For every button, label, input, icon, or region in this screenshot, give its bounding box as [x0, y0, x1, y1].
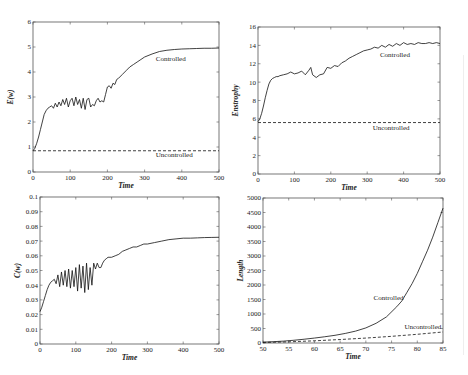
- annotation-uncontrolled: Uncontrolled: [373, 124, 410, 132]
- x-tick-label: 400: [178, 346, 189, 354]
- y-tick-label: 0.08: [26, 223, 39, 231]
- y-tick-label: 0: [258, 339, 262, 347]
- y-tick-label: 5000: [247, 194, 262, 202]
- y-tick-label: 0.07: [26, 238, 39, 246]
- figure-canvas: 01002003004005000123456TimeE(w)Controlle…: [0, 0, 468, 375]
- x-tick-label: 300: [362, 176, 373, 184]
- y-tick-label: 0.04: [26, 282, 39, 290]
- y-tick-label: 4: [253, 134, 257, 142]
- y-tick-label: 3: [28, 93, 32, 101]
- chart-conductance: 010020030040050000.010.020.030.040.050.0…: [13, 193, 225, 362]
- series-controlled-line: [33, 48, 219, 151]
- x-tick-label: 500: [214, 174, 225, 182]
- x-tick-label: 200: [326, 176, 337, 184]
- y-tick-label: 0: [253, 170, 257, 178]
- annotation-controlled: Controlled: [374, 294, 404, 302]
- x-tick-label: 100: [65, 174, 76, 182]
- y-tick-label: 3000: [247, 252, 262, 260]
- y-tick-label: 0: [35, 340, 39, 348]
- y-tick-label: 2: [28, 118, 32, 126]
- x-tick-label: 75: [388, 345, 396, 353]
- y-tick-label: 0.01: [26, 326, 39, 334]
- y-tick-label: 5: [28, 43, 32, 51]
- annotation-controlled: Controlled: [380, 51, 410, 59]
- y-tick-label: 10: [249, 79, 257, 87]
- series-controlled-line: [40, 237, 219, 311]
- x-tick-label: 0: [31, 174, 35, 182]
- annotation-uncontrolled: Uncontrolled: [156, 151, 193, 159]
- y-axis-label: C(w): [13, 262, 22, 278]
- x-tick-label: 400: [177, 174, 188, 182]
- y-tick-label: 0.05: [26, 267, 39, 275]
- y-tick-label: 4: [28, 68, 32, 76]
- y-tick-label: 4000: [247, 223, 262, 231]
- y-axis-label: Length: [236, 259, 245, 282]
- y-tick-label: 8: [253, 97, 257, 105]
- x-axis-label: Time: [345, 352, 361, 361]
- x-tick-label: 500: [435, 176, 446, 184]
- chart-energy: 01002003004005000123456TimeE(w)Controlle…: [6, 18, 225, 190]
- y-tick-label: 6: [28, 18, 32, 26]
- x-tick-label: 500: [214, 346, 225, 354]
- x-tick-label: 300: [142, 346, 153, 354]
- x-axis-label: Time: [122, 353, 138, 362]
- chart-length: 5055606570758085050010001500200025003000…: [236, 194, 447, 361]
- x-tick-label: 100: [71, 346, 82, 354]
- series-controlled-line: [258, 43, 440, 122]
- y-tick-label: 0: [28, 168, 32, 176]
- y-tick-label: 2500: [247, 267, 262, 275]
- y-tick-label: 500: [251, 325, 262, 333]
- y-axis-label: Enstrophy: [231, 84, 240, 118]
- plot-frame: [258, 27, 440, 174]
- x-axis-label: Time: [341, 183, 357, 192]
- x-tick-label: 200: [102, 174, 113, 182]
- y-tick-label: 16: [249, 23, 257, 31]
- x-tick-label: 300: [139, 174, 150, 182]
- x-axis-label: Time: [118, 181, 134, 190]
- y-tick-label: 6: [253, 115, 257, 123]
- plot-frame: [263, 198, 443, 343]
- scan-edge-divider: [463, 55, 464, 355]
- x-tick-label: 55: [285, 345, 293, 353]
- x-tick-label: 0: [256, 176, 260, 184]
- x-tick-label: 100: [289, 176, 300, 184]
- x-tick-label: 65: [337, 345, 345, 353]
- y-tick-label: 0.02: [26, 311, 39, 319]
- y-tick-label: 0.1: [29, 193, 38, 201]
- y-tick-label: 1: [28, 143, 32, 151]
- y-tick-label: 4500: [247, 209, 262, 217]
- x-tick-label: 70: [362, 345, 370, 353]
- annotation-controlled: Controlled: [156, 55, 186, 63]
- plot-frame: [33, 22, 219, 172]
- y-tick-label: 1500: [247, 296, 262, 304]
- y-tick-label: 0.06: [26, 252, 39, 260]
- y-tick-label: 1000: [247, 310, 262, 318]
- x-tick-label: 60: [311, 345, 319, 353]
- y-axis-label: E(w): [6, 89, 15, 106]
- y-tick-label: 14: [249, 42, 257, 50]
- y-tick-label: 2: [253, 152, 257, 160]
- annotation-uncontrolled: Uncontrolled: [404, 323, 441, 331]
- y-tick-label: 12: [249, 60, 257, 68]
- x-tick-label: 85: [440, 345, 448, 353]
- y-tick-label: 2000: [247, 281, 262, 289]
- x-tick-label: 200: [106, 346, 117, 354]
- x-tick-label: 400: [398, 176, 409, 184]
- y-tick-label: 3500: [247, 238, 262, 246]
- x-tick-label: 80: [414, 345, 422, 353]
- x-tick-label: 0: [38, 346, 42, 354]
- y-tick-label: 0.09: [26, 208, 39, 216]
- y-tick-label: 0.03: [26, 296, 39, 304]
- chart-enstrophy: 01002003004005000246810121416TimeEnstrop…: [231, 23, 446, 192]
- plot-frame: [40, 197, 219, 344]
